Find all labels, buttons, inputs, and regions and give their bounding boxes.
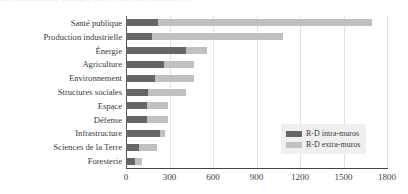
caption-remnant-text: de l'administration publique, par object… bbox=[0, 0, 408, 3]
legend-swatch-icon bbox=[286, 142, 302, 148]
bar-segment bbox=[126, 47, 186, 54]
y-category-label: Défense bbox=[0, 115, 122, 125]
bar-segment bbox=[126, 116, 147, 123]
bar-segment bbox=[135, 158, 142, 165]
y-category-label: Agriculture bbox=[0, 59, 122, 69]
x-tick-label: 300 bbox=[163, 172, 177, 182]
y-category-label: Énergie bbox=[0, 46, 122, 56]
bar-segment bbox=[126, 33, 152, 40]
bar-row bbox=[126, 158, 387, 165]
legend-label: R-D extra-muros bbox=[306, 140, 360, 150]
bar-segment bbox=[126, 144, 139, 151]
x-tick-label: 900 bbox=[250, 172, 264, 182]
y-axis-category-labels: Santé publiqueProduction industrielleÉne… bbox=[0, 16, 122, 168]
y-category-label: Infrastructure bbox=[0, 128, 122, 138]
bar-segment bbox=[152, 33, 283, 40]
bar-segment bbox=[126, 61, 164, 68]
x-tick-label: 600 bbox=[206, 172, 220, 182]
bar-segment bbox=[186, 47, 207, 54]
bar-segment bbox=[164, 61, 194, 68]
bar-row bbox=[126, 75, 387, 82]
y-category-label: Espace bbox=[0, 101, 122, 111]
legend-swatch-icon bbox=[286, 131, 302, 137]
bar-row bbox=[126, 102, 387, 109]
legend-label: R-D intra-muros bbox=[306, 129, 359, 139]
y-category-label: Structures sociales bbox=[0, 87, 122, 97]
bar-segment bbox=[160, 130, 165, 137]
y-category-label: Sciences de la Terre bbox=[0, 142, 122, 152]
bar-segment bbox=[126, 19, 158, 26]
y-category-label: Production industrielle bbox=[0, 32, 122, 42]
x-axis-line bbox=[126, 168, 388, 169]
bar-row bbox=[126, 116, 387, 123]
bar-row bbox=[126, 89, 387, 96]
gridline bbox=[387, 16, 388, 168]
bar-chart-figure: de l'administration publique, par object… bbox=[0, 0, 408, 194]
bar-segment bbox=[126, 89, 148, 96]
bar-row bbox=[126, 61, 387, 68]
bar-segment bbox=[155, 75, 194, 82]
legend-item: R-D intra-muros bbox=[286, 128, 360, 139]
x-tick-label: 1500 bbox=[335, 172, 353, 182]
bar-segment bbox=[139, 144, 157, 151]
bar-segment bbox=[147, 102, 168, 109]
bar-segment bbox=[126, 158, 135, 165]
bar-segment bbox=[126, 130, 160, 137]
bar-segment bbox=[126, 75, 155, 82]
bar-row bbox=[126, 33, 387, 40]
legend-item: R-D extra-muros bbox=[286, 139, 360, 150]
y-category-label: Foresterie bbox=[0, 156, 122, 166]
x-tick-label: 1200 bbox=[291, 172, 309, 182]
bar-segment bbox=[158, 19, 373, 26]
y-category-label: Environnement bbox=[0, 73, 122, 83]
bar-row bbox=[126, 19, 387, 26]
bar-segment bbox=[126, 102, 147, 109]
chart-legend: R-D intra-murosR-D extra-muros bbox=[281, 124, 366, 154]
bar-row bbox=[126, 47, 387, 54]
x-tick-label: 1800 bbox=[378, 172, 396, 182]
y-category-label: Santé publique bbox=[0, 18, 122, 28]
x-tick-label: 0 bbox=[124, 172, 129, 182]
bar-segment bbox=[147, 116, 168, 123]
bar-segment bbox=[148, 89, 186, 96]
